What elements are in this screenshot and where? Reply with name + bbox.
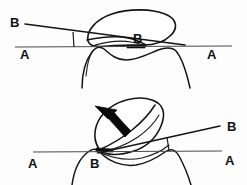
- label-a-lower-left: A: [28, 156, 38, 171]
- angle-tick-upper: [73, 32, 74, 47]
- label-b-upper-left: B: [10, 15, 19, 30]
- label-b-lower-center: B: [90, 156, 99, 171]
- upper-lower-boundary-curve: [82, 47, 190, 88]
- lower-diagram: A B B A: [28, 98, 236, 185]
- label-a-upper-left: A: [20, 47, 30, 62]
- label-b-upper-center: B: [133, 31, 142, 46]
- label-a-upper-right: A: [207, 47, 217, 62]
- label-a-lower-right: A: [225, 153, 235, 168]
- plane-aa-upper: [15, 46, 232, 47]
- plane-aa-lower: [33, 151, 222, 152]
- figure-container: B A B A: [0, 0, 247, 185]
- upper-diagram: B A B A: [10, 10, 232, 88]
- angle-tick-lower: [167, 137, 169, 151]
- label-b-lower-right: B: [227, 119, 236, 134]
- upper-soft-tissue-outline: [88, 10, 176, 47]
- line-diagram-svg: B A B A: [0, 0, 247, 185]
